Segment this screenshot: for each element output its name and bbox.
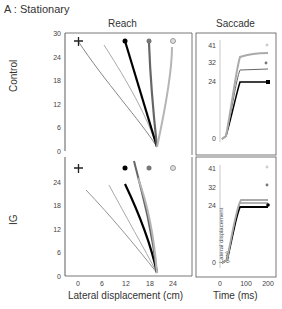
svg-text:12: 12 <box>53 226 61 233</box>
svg-text:32: 32 <box>208 59 216 66</box>
svg-text:24: 24 <box>53 54 61 61</box>
svg-text:18: 18 <box>53 202 61 209</box>
svg-text:12: 12 <box>53 101 61 108</box>
svg-text:6: 6 <box>100 280 104 287</box>
svg-text:0: 0 <box>212 259 216 266</box>
svg-text:100: 100 <box>240 280 252 287</box>
svg-text:0: 0 <box>76 280 80 287</box>
svg-text:6: 6 <box>57 249 61 256</box>
saccade-control-plot: 4132240 <box>196 33 276 155</box>
svg-text:24: 24 <box>53 179 61 186</box>
svg-text:41: 41 <box>208 165 216 172</box>
svg-text:41: 41 <box>208 42 216 49</box>
saccade-ig-plot: 4132240 0100200 <box>196 157 276 287</box>
svg-text:18: 18 <box>53 77 61 84</box>
reach-control-plot: 302418 1260 <box>53 30 192 155</box>
figure-canvas: 302418 1260 4132240 2418 1 <box>0 0 282 309</box>
svg-text:0: 0 <box>212 135 216 142</box>
svg-text:0: 0 <box>57 273 61 280</box>
svg-text:30: 30 <box>53 30 61 37</box>
svg-text:0: 0 <box>218 280 222 287</box>
svg-text:24: 24 <box>208 202 216 209</box>
svg-text:24: 24 <box>169 280 177 287</box>
svg-text:32: 32 <box>208 184 216 191</box>
svg-text:24: 24 <box>208 78 216 85</box>
svg-text:6: 6 <box>57 124 61 131</box>
svg-text:0: 0 <box>57 148 61 155</box>
reach-ig-plot: 2418 1260 0612 1824 <box>53 157 192 287</box>
svg-text:18: 18 <box>146 280 154 287</box>
svg-text:12: 12 <box>122 280 130 287</box>
svg-text:200: 200 <box>262 280 274 287</box>
